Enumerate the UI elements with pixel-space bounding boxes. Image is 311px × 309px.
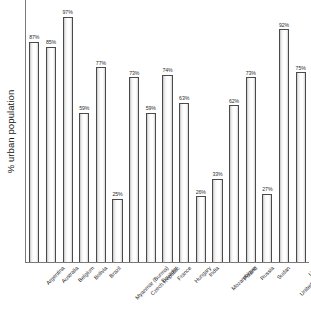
bar-france: 74%: [162, 0, 172, 262]
x-axis-label-poland: Poland: [242, 265, 258, 281]
bar-value-label: 87%: [29, 34, 39, 41]
bar-column: 63%: [179, 95, 189, 262]
bar-rect: [179, 103, 189, 262]
bar-value-label: 92%: [279, 22, 289, 29]
bar-rect: [279, 29, 289, 262]
bar-value-label: 59%: [79, 105, 89, 112]
bar-sudan: 27%: [262, 0, 272, 262]
bar-rect: [146, 113, 156, 262]
bar-belgium: 97%: [63, 0, 73, 262]
bar-value-label: 62%: [229, 98, 239, 105]
bar-rect: [262, 194, 272, 262]
bar-column: 85%: [46, 39, 56, 262]
bar-rect: [196, 196, 206, 262]
bar-myanmar-burma: 25%: [112, 0, 122, 262]
bar-value-label: 26%: [196, 189, 206, 196]
x-axis-label-sudan: Sudan: [275, 265, 291, 281]
bar-column: 75%: [296, 65, 306, 262]
bar-rect: [112, 199, 122, 262]
bar-column: 73%: [246, 70, 256, 262]
bar-rect: [229, 105, 239, 262]
bar-value-label: 73%: [246, 70, 256, 77]
bar-value-label: 33%: [212, 171, 222, 178]
bar-mozambique: 33%: [212, 0, 222, 262]
bar-rect: [246, 77, 256, 262]
bar-rect: [79, 113, 89, 262]
bar-column: 87%: [29, 34, 39, 262]
bar-value-label: 25%: [113, 191, 123, 198]
y-axis-title-text: % urban population: [6, 89, 17, 173]
bar-brazil: 77%: [96, 0, 106, 262]
bar-rect: [129, 77, 139, 262]
bar-ecuador: 59%: [146, 0, 156, 262]
bar-column: 59%: [146, 105, 156, 262]
bar-rect: [212, 179, 222, 262]
plot-area: 87%85%97%59%77%25%73%59%74%63%26%33%62%7…: [26, 0, 309, 262]
x-axis-labels: ArgentinaAustraliaBelgiumBoliviaBrazilMy…: [26, 263, 309, 309]
bar-india: 26%: [196, 0, 206, 262]
bar-column: 77%: [96, 60, 106, 262]
bar-column: 33%: [212, 171, 222, 262]
bar-value-label: 77%: [96, 60, 106, 67]
bar-rect: [29, 42, 39, 262]
y-axis-title: % urban population: [0, 0, 22, 262]
bar-column: 62%: [229, 98, 239, 262]
bar-czech-republic: 73%: [129, 0, 139, 262]
bar-value-label: 63%: [179, 95, 189, 102]
x-axis-label-bolivia: Bolivia: [92, 265, 108, 281]
bar-poland: 62%: [229, 0, 239, 262]
bar-rect: [96, 67, 106, 262]
bar-rect: [296, 72, 306, 262]
bar-rect: [162, 75, 172, 262]
bar-column: 97%: [63, 9, 73, 262]
bar-column: 26%: [196, 189, 206, 262]
bar-chart: % urban population 87%85%97%59%77%25%73%…: [0, 0, 311, 309]
bar-value-label: 73%: [129, 70, 139, 77]
bar-russia: 73%: [246, 0, 256, 262]
bar-united-kingdom: 92%: [279, 0, 289, 262]
bar-column: 25%: [112, 191, 122, 262]
bar-australia: 85%: [46, 0, 56, 262]
bar-rect: [63, 17, 73, 262]
bar-usa: 75%: [296, 0, 306, 262]
bar-value-label: 85%: [46, 39, 56, 46]
bar-rect: [46, 47, 56, 262]
x-axis-label-belgium: Belgium: [77, 265, 95, 283]
bar-column: 73%: [129, 70, 139, 262]
bar-value-label: 74%: [162, 67, 172, 74]
bar-argentina: 87%: [29, 0, 39, 262]
bar-value-label: 27%: [262, 186, 272, 193]
bar-column: 27%: [262, 186, 272, 262]
bar-bolivia: 59%: [79, 0, 89, 262]
x-axis-label-russia: Russia: [259, 265, 275, 281]
x-axis-label-brazil: Brazil: [108, 265, 122, 279]
bar-column: 74%: [162, 67, 172, 262]
bar-value-label: 59%: [146, 105, 156, 112]
bar-column: 92%: [279, 22, 289, 262]
bar-value-label: 97%: [63, 9, 73, 16]
bar-column: 59%: [79, 105, 89, 262]
bar-value-label: 75%: [296, 65, 306, 72]
x-axis-label-usa: USA: [307, 265, 311, 277]
bar-hungary: 63%: [179, 0, 189, 262]
